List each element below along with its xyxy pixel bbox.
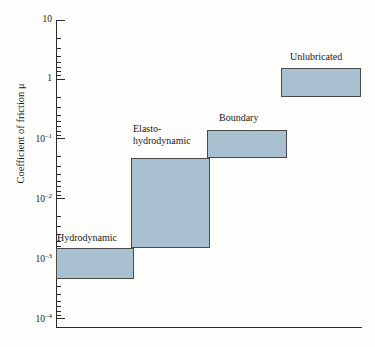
y-tick-minor (56, 156, 61, 157)
y-tick-minor (56, 75, 61, 76)
band-label-boundary-line1: Boundary (219, 112, 258, 123)
y-tick-label-1e-1-mantissa: 10 (36, 134, 46, 144)
y-tick-minor (56, 301, 61, 302)
y-tick-label-1e-3-exponent: –3 (45, 252, 52, 260)
y-tick-minor (56, 48, 61, 49)
y-tick-minor (56, 38, 61, 39)
band-label-boundary: Boundary (219, 112, 258, 124)
y-tick-minor (56, 166, 61, 167)
y-tick-minor (56, 246, 61, 247)
y-tick-minor (56, 56, 61, 57)
y-tick-major-1e-4 (56, 318, 65, 319)
x-axis-line (56, 327, 362, 328)
y-tick-minor (56, 115, 61, 116)
y-tick-minor (56, 286, 61, 287)
y-tick-major-1e-2 (56, 198, 65, 199)
y-tick-label-10: 10 (14, 15, 52, 25)
y-tick-minor (56, 311, 61, 312)
y-tick-minor (56, 315, 61, 316)
y-tick-minor (56, 226, 61, 227)
y-tick-minor (56, 216, 61, 217)
y-tick-minor (56, 97, 61, 98)
y-tick-label-1e-3: 10–3 (14, 253, 52, 265)
y-tick-label-1e-3-mantissa: 10 (36, 254, 46, 264)
band-label-unlubricated-line1: Unlubricated (290, 51, 342, 62)
band-elasto-hydrodynamic (131, 158, 210, 248)
band-label-elasto-hydrodynamic-line2: hydrodynamic (133, 135, 191, 146)
y-tick-major-1 (56, 79, 65, 80)
band-label-hydrodynamic-line1: Hydrodynamic (57, 232, 117, 243)
band-label-hydrodynamic: Hydrodynamic (57, 232, 117, 244)
band-label-elasto-hydrodynamic-line1: Elasto- (133, 123, 161, 134)
y-tick-label-1e-4: 10–4 (14, 313, 52, 325)
band-label-unlubricated: Unlubricated (290, 51, 342, 63)
y-tick-minor (56, 71, 61, 72)
y-tick-label-10-mantissa: 10 (43, 14, 53, 24)
y-tick-minor (56, 62, 61, 63)
y-tick-label-1e-2-exponent: –2 (45, 192, 52, 200)
y-tick-minor (56, 306, 61, 307)
band-label-elasto-hydrodynamic: Elasto- hydrodynamic (133, 123, 191, 146)
y-tick-minor (56, 191, 61, 192)
y-tick-minor (56, 135, 61, 136)
y-tick-major-10 (56, 20, 65, 21)
y-tick-minor (56, 121, 61, 122)
y-axis-title: Coefficient of friction μ (15, 59, 26, 209)
y-tick-label-1-mantissa: 1 (47, 73, 52, 83)
friction-coefficient-chart: 10 1 10–1 10–2 10–3 10–4 Coefficient of … (0, 0, 375, 347)
y-tick-label-1e-2-mantissa: 10 (36, 194, 46, 204)
y-tick-label-1e-1-exponent: –1 (45, 132, 52, 140)
y-tick-minor (56, 126, 61, 127)
y-tick-label-1e-4-mantissa: 10 (36, 314, 46, 324)
band-unlubricated (281, 68, 361, 97)
y-tick-minor (56, 181, 61, 182)
y-tick-label-1e-4-exponent: –4 (45, 312, 52, 320)
y-tick-minor (56, 174, 61, 175)
y-tick-minor (56, 294, 61, 295)
band-boundary (207, 130, 287, 158)
y-tick-minor (56, 195, 61, 196)
y-tick-major-1e-1 (56, 138, 65, 139)
y-tick-minor (56, 131, 61, 132)
band-hydrodynamic (56, 248, 134, 279)
y-tick-minor (56, 186, 61, 187)
y-tick-minor (56, 107, 61, 108)
y-tick-minor (56, 67, 61, 68)
